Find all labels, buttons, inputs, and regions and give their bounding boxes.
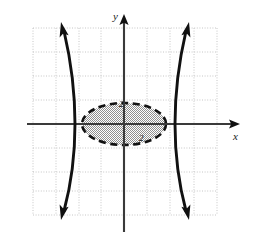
ellipse-x-intercept-label: 2 [139,133,144,143]
ellipse-y-intercept-label: 2 [119,99,124,109]
conic-sections-figure: y x 2 2 [0,0,255,242]
hyperbola-left-branch [64,31,75,211]
y-axis-label: y [112,10,118,22]
hyperbola-right-branch [175,31,186,211]
x-axis-label: x [232,130,238,142]
graph-canvas: y x 2 2 [0,0,255,242]
